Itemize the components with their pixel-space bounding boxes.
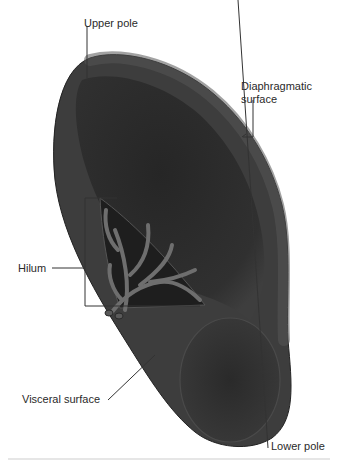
label-diaphragmatic-surface: Diaphragmatic surface — [241, 80, 312, 106]
label-diaphragmatic-line1: Diaphragmatic — [241, 80, 312, 93]
label-hilum: Hilum — [18, 262, 46, 275]
label-visceral-surface: Visceral surface — [22, 393, 100, 406]
bottom-divider — [8, 458, 330, 460]
label-diaphragmatic-line2: surface — [241, 93, 312, 106]
label-upper-pole: Upper pole — [84, 17, 138, 30]
label-lower-pole: Lower pole — [271, 440, 325, 453]
lower-pole-area — [180, 318, 280, 442]
